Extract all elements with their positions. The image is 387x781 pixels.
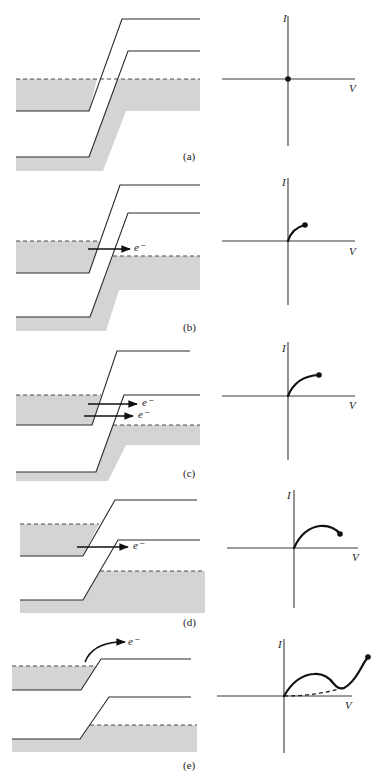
filled-states-region [16,241,100,273]
electron-label: e⁻ [134,241,146,253]
iv-curve [288,375,319,396]
filled-states-region [20,524,99,556]
electron-label: e⁻ [128,635,140,647]
panel-d: e⁻(d)IV [20,489,360,629]
iv-plot: IV [222,12,357,146]
band-diagram: e⁻ [20,500,205,613]
panel-label: (e) [183,759,196,772]
panel-label: (a) [183,150,196,163]
iv-plot: IV [227,489,360,608]
voltage-axis-label: V [349,399,357,411]
band-diagram: e⁻ [12,635,197,752]
filled-states-region [16,425,200,481]
operating-point-dot [285,76,291,82]
current-axis-label: I [282,12,288,24]
panel-label: (d) [183,616,196,629]
voltage-axis-label: V [352,551,360,563]
electron-label: e⁻ [133,539,145,551]
current-axis-label: I [281,176,287,188]
electron-label: e⁻ [138,408,150,420]
panel-a: (a)IV [16,12,357,171]
band-diagram [16,19,200,171]
diffusion-current-curve [284,687,345,696]
voltage-axis-label: V [349,245,357,257]
operating-point-dot [337,531,343,537]
iv-plot: IV [222,342,357,460]
operating-point-dot [316,372,322,378]
panel-c: e⁻e⁻(c)IV [16,342,357,481]
iv-plot: IV [222,176,357,305]
band-diagram: e⁻ [16,185,200,331]
filled-states-region [16,79,97,111]
panel-b: e⁻(b)IV [16,176,357,334]
iv-curve [284,657,368,696]
iv-curve [288,225,305,241]
operating-point-dot [302,222,308,228]
panel-e: e⁻(e)IV [12,635,371,772]
current-axis-label: I [286,489,292,501]
panels: (a)IVe⁻(b)IVe⁻e⁻(c)IVe⁻(d)IVe⁻(e)IV [12,12,371,772]
tunnel-diode-figure: (a)IVe⁻(b)IVe⁻e⁻(c)IVe⁻(d)IVe⁻(e)IV [0,0,387,781]
iv-plot: IV [217,638,371,753]
panel-label: (c) [183,467,196,480]
current-axis-label: I [281,342,287,354]
current-axis-label: I [277,638,283,650]
band-diagram: e⁻e⁻ [16,351,200,481]
iv-curve [294,526,340,548]
filled-states-region [16,395,101,425]
operating-point-dot [365,654,371,660]
voltage-axis-label: V [349,82,357,94]
panel-label: (b) [183,321,196,334]
electron-label: e⁻ [142,396,154,408]
filled-states-region [20,571,205,613]
voltage-axis-label: V [345,699,353,711]
